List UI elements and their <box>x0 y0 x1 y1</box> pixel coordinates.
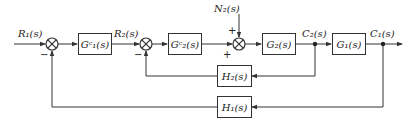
signal-label-n2: N₂(s) <box>214 3 240 15</box>
pickoff-c1-icon <box>381 42 385 46</box>
sign-sum1-feedback: − <box>40 50 48 60</box>
block-diagram: Gᶜ₁(s) Gᶜ₂(s) G₂(s) G₁(s) H₂(s) H₁(s) R₁… <box>0 0 412 124</box>
sign-sum3-forward: + <box>223 50 231 60</box>
block-g1: G₁(s) <box>332 33 366 55</box>
pickoff-c2-icon <box>313 42 317 46</box>
signal-label-r2: R₂(s) <box>114 28 138 40</box>
signal-label-c1: C₁(s) <box>370 28 395 40</box>
summing-junction-3-icon <box>233 38 245 50</box>
signal-label-c2: C₂(s) <box>302 28 327 40</box>
block-h1: H₁(s) <box>217 96 252 118</box>
block-gc2: Gᶜ₂(s) <box>168 33 202 55</box>
block-g2: G₂(s) <box>262 33 296 55</box>
sign-sum3-disturbance: + <box>228 26 236 36</box>
block-h2: H₂(s) <box>217 65 252 87</box>
diagram-wires <box>0 0 412 124</box>
block-gc1: Gᶜ₁(s) <box>78 33 112 55</box>
sign-sum2-feedback: − <box>134 50 142 60</box>
signal-label-r1: R₁(s) <box>18 28 42 40</box>
